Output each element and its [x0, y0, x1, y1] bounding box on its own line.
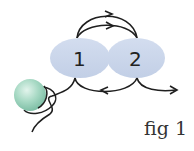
figure-caption: fig 1: [144, 117, 187, 139]
node-2-label: 2: [129, 47, 142, 71]
node-1-label: 1: [73, 47, 86, 71]
lower-arc-arrows: [75, 78, 177, 94]
upper-arc-arrows: [77, 11, 137, 38]
diagram-canvas: 1 2 fig 1: [0, 0, 194, 151]
